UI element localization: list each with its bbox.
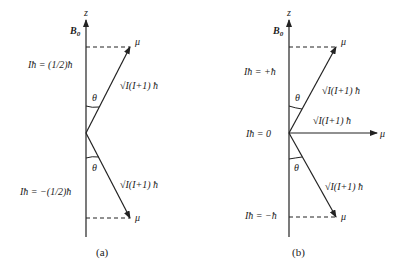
level-label-lower-b: Iħ = −ħ <box>244 210 277 221</box>
panel-b: z B0 μ μ μ Iħ = +ħ Iħ = 0 Iħ = −ħ √I(I+1… <box>243 7 385 259</box>
theta-arc-top-a <box>86 106 99 107</box>
vector-magnitude-middle-b: √I(I+1) ħ <box>313 115 351 127</box>
caption-b: (b) <box>292 246 305 259</box>
theta-label-bottom-b: θ <box>294 162 299 173</box>
vector-magnitude-bottom-b: √I(I+1) ħ <box>325 181 363 193</box>
mu-vector-down-b <box>289 133 336 217</box>
z-axis-label-b: z <box>286 7 291 18</box>
mu-label-middle-b: μ <box>379 128 385 139</box>
vector-magnitude-top-a: √I(I+1) ħ <box>120 80 158 92</box>
caption-a: (a) <box>96 246 109 259</box>
mu-label-bottom-a: μ <box>134 212 140 223</box>
theta-arc-bottom-b <box>289 157 302 159</box>
level-label-upper-b: Iħ = +ħ <box>243 66 276 77</box>
theta-label-bottom-a: θ <box>92 162 97 173</box>
panel-a: z B0 μ μ Iħ = (1/2)ħ Iħ = −(1/2)ħ √I(I+1… <box>19 7 158 259</box>
spin-quantization-diagram: z B0 μ μ Iħ = (1/2)ħ Iħ = −(1/2)ħ √I(I+1… <box>0 0 402 271</box>
vector-magnitude-top-b: √I(I+1) ħ <box>322 85 360 97</box>
level-label-upper-a: Iħ = (1/2)ħ <box>27 59 73 71</box>
level-label-lower-a: Iħ = −(1/2)ħ <box>19 186 71 198</box>
theta-arc-bottom-a <box>86 157 99 158</box>
level-label-middle-b: Iħ = 0 <box>245 128 271 139</box>
theta-label-top-b: θ <box>295 92 300 103</box>
theta-arc-top-b <box>289 106 302 109</box>
mu-label-top-a: μ <box>134 36 140 47</box>
mu-label-bottom-b: μ <box>340 211 346 222</box>
diagram-svg: z B0 μ μ Iħ = (1/2)ħ Iħ = −(1/2)ħ √I(I+1… <box>0 0 402 271</box>
b0-label-b: B0 <box>272 25 284 38</box>
b0-label-a: B0 <box>69 25 81 38</box>
theta-label-top-a: θ <box>92 92 97 103</box>
vector-magnitude-bottom-a: √I(I+1) ħ <box>120 179 158 191</box>
z-axis-label-a: z <box>83 7 88 18</box>
mu-vector-down-a <box>86 133 130 218</box>
mu-label-top-b: μ <box>340 36 346 47</box>
